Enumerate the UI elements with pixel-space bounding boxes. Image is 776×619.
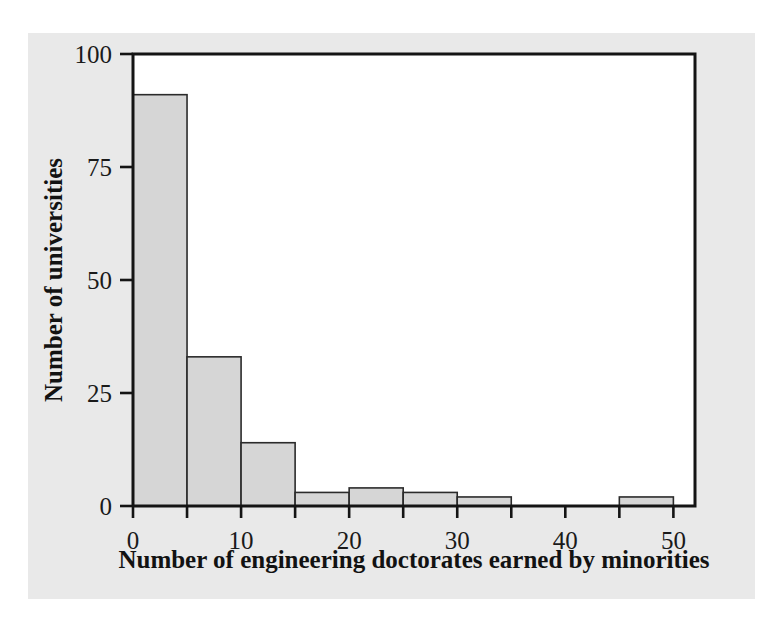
histogram-bar bbox=[403, 492, 457, 506]
histogram-bar bbox=[133, 95, 187, 506]
figure-page: 01020304050 0255075100 Number of enginee… bbox=[0, 0, 776, 619]
x-axis-ticks bbox=[133, 506, 673, 518]
y-axis-tick-labels: 0255075100 bbox=[75, 41, 113, 520]
y-tick-label: 100 bbox=[75, 41, 113, 68]
histogram-chart: 01020304050 0255075100 Number of enginee… bbox=[28, 33, 755, 599]
histogram-bar bbox=[295, 492, 349, 506]
y-tick-label: 0 bbox=[100, 493, 113, 520]
histogram-bar bbox=[349, 488, 403, 506]
x-axis-title: Number of engineering doctorates earned … bbox=[118, 546, 709, 573]
histogram-bar bbox=[187, 357, 241, 506]
y-tick-label: 25 bbox=[87, 380, 112, 407]
y-axis-title: Number of universities bbox=[40, 158, 67, 402]
histogram-bar bbox=[241, 443, 295, 506]
y-tick-label: 50 bbox=[87, 267, 112, 294]
y-tick-label: 75 bbox=[87, 154, 112, 181]
y-axis-ticks bbox=[120, 54, 133, 506]
chart-figure-panel: 01020304050 0255075100 Number of enginee… bbox=[28, 33, 755, 599]
